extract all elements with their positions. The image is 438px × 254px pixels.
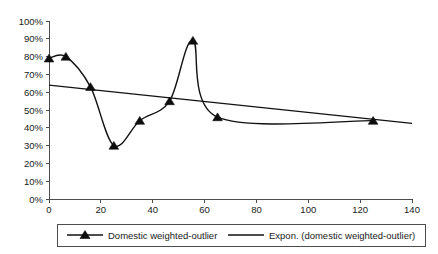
y-tick-label: 70% bbox=[24, 69, 44, 80]
y-tick-label: 50% bbox=[24, 105, 44, 116]
y-tick-label: 0% bbox=[29, 194, 43, 205]
x-tick-label: 120 bbox=[352, 204, 368, 215]
y-tick-label: 90% bbox=[24, 33, 44, 44]
y-tick-label: 20% bbox=[24, 158, 44, 169]
x-tick-label: 40 bbox=[147, 204, 158, 215]
y-tick-label: 80% bbox=[24, 51, 44, 62]
x-tick-label: 20 bbox=[96, 204, 107, 215]
x-axis-tick-marks bbox=[49, 199, 412, 203]
y-axis-tick-labels: 0%10%20%30%40%50%60%70%80%90%100% bbox=[19, 16, 44, 205]
y-tick-label: 30% bbox=[24, 140, 44, 151]
domestic-weighted-outlier-markers bbox=[44, 36, 378, 149]
chart-figure: 0%10%20%30%40%50%60%70%80%90%100% 020406… bbox=[0, 0, 438, 254]
x-axis-tick-labels: 020406080100120140 bbox=[46, 204, 420, 215]
exponential-trendline bbox=[49, 85, 412, 123]
y-tick-label: 100% bbox=[19, 16, 44, 27]
y-tick-label: 40% bbox=[24, 122, 44, 133]
data-point-marker bbox=[188, 36, 198, 44]
data-point-marker bbox=[213, 113, 223, 121]
domestic-weighted-outlier-line bbox=[49, 40, 373, 146]
x-tick-label: 0 bbox=[46, 204, 51, 215]
line-chart: 0%10%20%30%40%50%60%70%80%90%100% 020406… bbox=[0, 0, 438, 254]
legend-label-series: Domestic weighted-outlier bbox=[108, 230, 217, 241]
x-tick-label: 140 bbox=[404, 204, 420, 215]
data-point-marker bbox=[61, 52, 71, 60]
y-tick-label: 60% bbox=[24, 87, 44, 98]
x-tick-label: 60 bbox=[199, 204, 210, 215]
data-point-marker bbox=[44, 54, 54, 62]
x-tick-label: 100 bbox=[300, 204, 316, 215]
y-tick-label: 10% bbox=[24, 176, 44, 187]
legend-label-trendline: Expon. (domestic weighted-outlier) bbox=[269, 230, 415, 241]
x-tick-label: 80 bbox=[251, 204, 262, 215]
data-point-marker bbox=[86, 83, 96, 91]
